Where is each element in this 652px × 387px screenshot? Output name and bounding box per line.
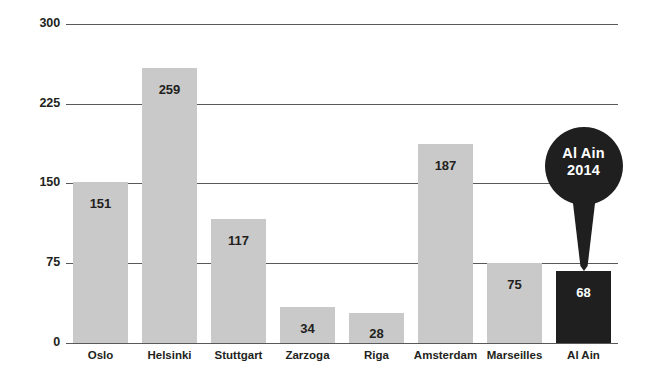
bar-value-oslo: 151 <box>73 197 128 210</box>
bar-value-stuttgart: 117 <box>211 234 266 247</box>
bar-zarzoga[interactable]: 34 <box>280 307 335 343</box>
bar-value-marseilles: 75 <box>487 278 542 291</box>
bar-value-riga: 28 <box>349 327 404 340</box>
axis-baseline-0 <box>66 343 618 344</box>
bar-marseilles[interactable]: 75 <box>487 263 542 343</box>
bar-value-al-ain: 68 <box>556 286 611 299</box>
x-label-al-ain: Al Ain <box>541 350 626 362</box>
bar-chart: 300 225 150 75 0 15125911734281877568 Os… <box>0 0 652 387</box>
bar-amsterdam[interactable]: 187 <box>418 144 473 343</box>
bar-helsinki[interactable]: 259 <box>142 68 197 343</box>
bar-oslo[interactable]: 151 <box>73 182 128 343</box>
bar-value-amsterdam: 187 <box>418 159 473 172</box>
bar-value-zarzoga: 34 <box>280 322 335 335</box>
bar-stuttgart[interactable]: 117 <box>211 219 266 343</box>
bar-al-ain[interactable]: 68 <box>556 271 611 343</box>
bar-value-helsinki: 259 <box>142 83 197 96</box>
al-ain-callout[interactable]: Al Ain 2014 <box>529 119 639 274</box>
callout-bubble-shape <box>529 119 639 274</box>
bar-riga[interactable]: 28 <box>349 313 404 343</box>
callout-line-2: 2014 <box>529 162 639 179</box>
callout-line-1: Al Ain <box>529 145 639 162</box>
